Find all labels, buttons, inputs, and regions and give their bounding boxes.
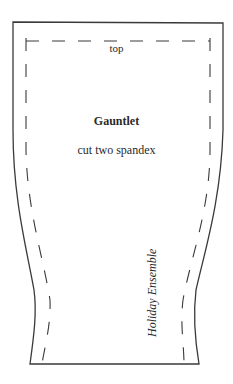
cutting-outline	[13, 22, 223, 364]
cutting-instructions: cut two spandex	[0, 143, 233, 158]
seam-line-dashed	[26, 38, 210, 364]
piece-title: Gauntlet	[0, 114, 233, 129]
collection-label: Holiday Ensemble	[145, 249, 160, 337]
gauntlet-pattern-piece	[0, 0, 233, 384]
top-edge-label: top	[0, 42, 233, 54]
